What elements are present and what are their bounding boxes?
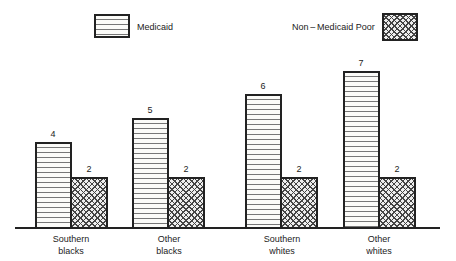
value-label: 2	[379, 164, 415, 174]
category-line2: blacks	[31, 245, 111, 257]
legend-label-non-medicaid: Non – Medicaid Poor	[292, 22, 375, 32]
legend-label-medicaid: Medicaid	[137, 22, 173, 32]
category-line1: Other	[339, 233, 419, 245]
value-label: 2	[281, 164, 317, 174]
category-line1: Southern	[242, 233, 322, 245]
bar-medicaid-southern-whites	[245, 94, 282, 229]
category-label-other-whites: Other whites	[339, 233, 419, 257]
category-line2: whites	[339, 245, 419, 257]
bar-non-medicaid-southern-whites	[280, 177, 318, 229]
value-label: 2	[71, 164, 107, 174]
value-label: 6	[245, 81, 281, 91]
category-line1: Other	[129, 233, 209, 245]
category-label-southern-whites: Southern whites	[242, 233, 322, 257]
bar-non-medicaid-other-whites	[378, 177, 416, 229]
legend-swatch-medicaid	[94, 14, 130, 38]
category-label-southern-blacks: Southern blacks	[31, 233, 111, 257]
bar-medicaid-other-whites	[343, 71, 380, 229]
bar-medicaid-southern-blacks	[35, 142, 72, 229]
value-label: 2	[168, 164, 204, 174]
legend-swatch-non-medicaid	[382, 13, 418, 41]
bar-non-medicaid-southern-blacks	[70, 177, 108, 229]
category-label-other-blacks: Other blacks	[129, 233, 209, 257]
value-label: 7	[343, 58, 379, 68]
category-line2: whites	[242, 245, 322, 257]
x-axis-baseline	[15, 227, 440, 229]
value-label: 4	[35, 129, 71, 139]
bar-medicaid-other-blacks	[132, 118, 169, 229]
category-line1: Southern	[31, 233, 111, 245]
bar-non-medicaid-other-blacks	[167, 177, 205, 229]
value-label: 5	[132, 105, 168, 115]
category-line2: blacks	[129, 245, 209, 257]
